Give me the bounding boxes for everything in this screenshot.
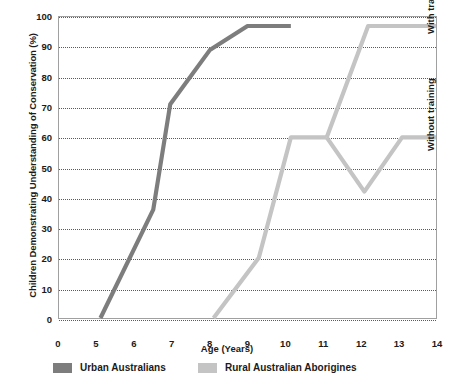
y-tick-label: 40	[26, 192, 52, 203]
legend-item[interactable]: Urban Australians	[53, 362, 166, 373]
series-line	[214, 137, 327, 318]
data-series-layer	[59, 17, 436, 318]
legend-label: Rural Australian Aborigines	[225, 362, 357, 373]
y-tick-label: 20	[26, 253, 52, 264]
chart-container: Children Demonstrating Understanding of …	[0, 0, 454, 389]
y-tick-label: 80	[26, 71, 52, 82]
series-line	[100, 26, 290, 318]
y-tick-label: 50	[26, 162, 52, 173]
gridline	[59, 320, 436, 321]
plot-area: With training Without training	[58, 16, 437, 319]
y-tick-label: 30	[26, 223, 52, 234]
y-tick-label: 60	[26, 132, 52, 143]
legend-item[interactable]: Rural Australian Aborigines	[198, 362, 357, 373]
legend-swatch	[53, 363, 72, 373]
series-line	[327, 26, 436, 137]
y-axis-tick-labels: 0102030405060708090100	[22, 0, 52, 389]
y-tick-label: 70	[26, 101, 52, 112]
x-axis-title: Age (Years)	[0, 343, 454, 354]
annotation-without-training: Without training	[425, 78, 436, 151]
y-tick-label: 100	[26, 11, 52, 22]
legend-swatch	[198, 363, 217, 373]
annotation-with-training: With training	[425, 0, 436, 34]
legend-label: Urban Australians	[80, 362, 166, 373]
y-tick-label: 10	[26, 283, 52, 294]
y-tick-label: 0	[26, 314, 52, 325]
y-tick-label: 90	[26, 41, 52, 52]
chart-legend: Urban AustraliansRural Australian Aborig…	[0, 362, 454, 384]
series-line	[327, 137, 436, 191]
